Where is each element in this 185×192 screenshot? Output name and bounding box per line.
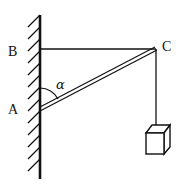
wall-hatching (28, 15, 40, 171)
hatch-mark (28, 27, 40, 39)
label-alpha: α (56, 77, 65, 92)
box-front-face (146, 133, 164, 154)
label-b: B (8, 44, 17, 59)
hatch-mark (28, 87, 40, 99)
hatch-mark (28, 39, 40, 51)
hatch-mark (28, 111, 40, 123)
hatch-mark (28, 123, 40, 135)
diagram-svg: B C A α (0, 0, 185, 192)
hatch-mark (28, 135, 40, 147)
hatch-mark (28, 63, 40, 75)
hatch-mark (28, 147, 40, 159)
label-c: C (162, 39, 171, 54)
hatch-mark (28, 75, 40, 87)
hatch-mark (28, 15, 40, 27)
label-a: A (8, 102, 19, 117)
hatch-mark (28, 159, 40, 171)
load-box (146, 125, 170, 154)
diagram-canvas: B C A α (0, 0, 185, 192)
hatch-mark (28, 99, 40, 111)
hatch-mark (28, 51, 40, 63)
